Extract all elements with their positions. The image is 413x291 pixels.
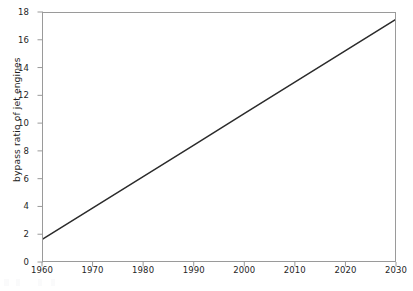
y-axis-tick-label: 4 bbox=[23, 202, 29, 211]
x-axis-tick-label: 2020 bbox=[334, 266, 356, 275]
y-axis-tick-label: 0 bbox=[23, 258, 29, 267]
y-axis-tick-label: 10 bbox=[18, 119, 29, 128]
x-axis-tick-label: 2010 bbox=[284, 266, 306, 275]
y-axis-tick-label: 16 bbox=[18, 36, 29, 45]
scan-artifact bbox=[4, 279, 82, 286]
series-line bbox=[43, 20, 395, 239]
y-axis-tick-label: 14 bbox=[18, 63, 29, 72]
chart-figure: bypass ratio of jet engines 024681012141… bbox=[0, 0, 413, 291]
x-axis-tick-label: 2000 bbox=[233, 266, 255, 275]
x-axis-tick-label: 2030 bbox=[385, 266, 407, 275]
x-axis-tick-labels: 19601970198019902000201020202030 bbox=[42, 266, 396, 282]
x-axis-tick-label: 1970 bbox=[82, 266, 104, 275]
plot-series-layer bbox=[43, 13, 395, 261]
y-axis-tick-label: 8 bbox=[23, 147, 29, 156]
y-axis-tick-label: 12 bbox=[18, 91, 29, 100]
x-axis-tick-label: 1960 bbox=[31, 266, 53, 275]
x-axis-tick-label: 1980 bbox=[132, 266, 154, 275]
x-axis-tick-label: 1990 bbox=[183, 266, 205, 275]
y-axis-tick-label: 2 bbox=[23, 230, 29, 239]
y-axis-tick-label: 18 bbox=[18, 8, 29, 17]
plot-area bbox=[42, 12, 396, 262]
y-axis-tick-labels: 024681012141618 bbox=[0, 12, 36, 262]
y-axis-tick-label: 6 bbox=[23, 174, 29, 183]
